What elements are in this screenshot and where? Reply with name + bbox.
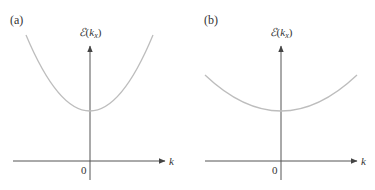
y-axis-label: ℰ(kx): [79, 26, 102, 40]
panel-label: (b): [204, 13, 218, 27]
origin-label: 0: [272, 164, 278, 176]
panel-label: (a): [10, 13, 23, 27]
panel-b: (b) ℰ(kx) k 0: [204, 13, 367, 180]
x-axis-label: k: [169, 155, 175, 167]
origin-label: 0: [81, 164, 87, 176]
x-axis-label: k: [361, 155, 367, 167]
y-axis-label: ℰ(kx): [270, 26, 293, 40]
panel-a: (a) ℰ(kx) k 0: [10, 13, 175, 180]
figure: (a) ℰ(kx) k 0 (b) ℰ(kx) k 0: [0, 0, 375, 190]
